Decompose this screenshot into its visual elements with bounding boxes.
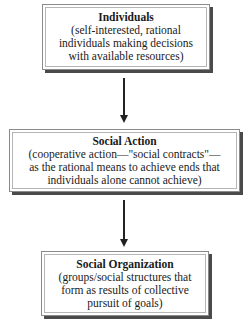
arrowhead-down-icon	[120, 115, 128, 123]
node-social-action: Social Action (cooperative action—"socia…	[9, 129, 240, 192]
node-social-action-inner: Social Action (cooperative action—"socia…	[12, 132, 237, 189]
node-desc-line: form as results of collective	[61, 284, 189, 297]
arrow-individuals-to-social-action	[123, 78, 125, 116]
arrow-social-action-to-social-organization	[123, 200, 125, 240]
node-desc-line: pursuit of goals)	[87, 297, 162, 310]
node-individuals-inner: Individuals (self-interested, rational i…	[45, 7, 207, 67]
node-desc-line: (groups/social structures that	[59, 271, 192, 284]
node-social-organization-inner: Social Organization (groups/social struc…	[44, 254, 206, 313]
arrowhead-down-icon	[120, 239, 128, 247]
node-desc-line: as the rational means to achieve ends th…	[29, 161, 220, 174]
node-desc-line: (self-interested, rational	[71, 24, 181, 37]
node-social-organization: Social Organization (groups/social struc…	[41, 251, 209, 316]
node-desc-line: (cooperative action—"social contracts"—	[28, 148, 220, 161]
node-title: Social Organization	[76, 258, 173, 271]
node-title: Individuals	[98, 11, 154, 24]
node-desc-line: with available resources)	[69, 50, 184, 63]
node-title: Social Action	[92, 135, 156, 148]
node-desc-line: individuals alone cannot achieve)	[47, 174, 201, 187]
node-individuals: Individuals (self-interested, rational i…	[42, 4, 210, 70]
node-desc-line: individuals making decisions	[59, 37, 193, 50]
